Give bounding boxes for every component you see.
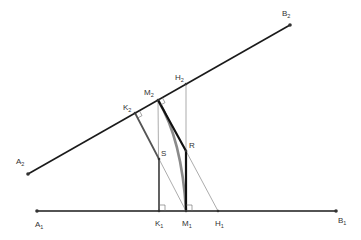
label-k2: K2 [123,103,131,113]
point-m1 [185,210,188,213]
point-m2 [157,99,160,102]
geometry-diagram: A1 B1 A2 B2 K1 M1 H1 K2 M2 H2 S R [0,0,361,240]
point-k2 [134,112,137,115]
label-a2: A2 [16,157,24,167]
label-b2: B2 [282,9,290,19]
point-b2 [288,23,292,27]
label-h1: H1 [215,219,224,229]
point-r [185,150,188,153]
point-k1 [158,210,161,213]
point-a1 [35,209,39,213]
path-k2-s-k1 [135,113,159,211]
point-h2 [185,83,188,86]
label-k1: K1 [155,219,163,229]
point-s [158,158,161,161]
label-m2: M2 [144,88,154,98]
label-b1: B1 [338,216,346,226]
points [26,23,338,213]
label-r: R [189,141,195,150]
label-a1: A1 [35,220,43,230]
point-a2 [26,172,30,176]
segment-r-h1 [186,151,218,211]
label-m1: M1 [182,219,192,229]
point-h1 [217,210,220,213]
label-s: S [161,149,166,158]
label-h2: H2 [175,73,184,83]
point-b1 [334,209,338,213]
